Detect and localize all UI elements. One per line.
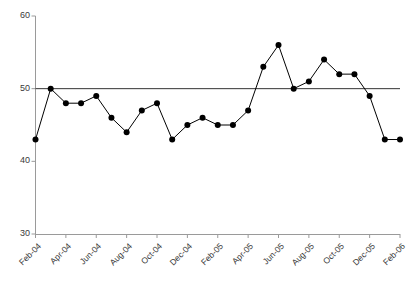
data-point bbox=[367, 93, 373, 99]
data-point bbox=[230, 122, 236, 128]
y-axis-label-30: 30 bbox=[8, 228, 30, 238]
data-point bbox=[382, 137, 388, 143]
data-point bbox=[397, 137, 403, 143]
data-point bbox=[351, 71, 357, 77]
data-point bbox=[336, 71, 342, 77]
data-point bbox=[108, 115, 114, 121]
data-point bbox=[215, 122, 221, 128]
data-point bbox=[321, 57, 327, 63]
data-point bbox=[184, 122, 190, 128]
line-chart: 30405060 Feb-04Apr-04Jun-04Aug-04Oct-04D… bbox=[0, 0, 411, 292]
data-point bbox=[124, 129, 130, 135]
data-point bbox=[139, 107, 145, 113]
data-point bbox=[63, 100, 69, 106]
data-point bbox=[48, 86, 54, 92]
data-point bbox=[245, 107, 251, 113]
data-point bbox=[276, 42, 282, 48]
data-point bbox=[260, 64, 266, 70]
data-point bbox=[169, 137, 175, 143]
data-point bbox=[154, 100, 160, 106]
data-point-markers bbox=[33, 42, 404, 142]
data-point bbox=[306, 78, 312, 84]
y-axis-label-40: 40 bbox=[8, 155, 30, 165]
y-axis-label-50: 50 bbox=[8, 83, 30, 93]
data-point bbox=[78, 100, 84, 106]
data-point bbox=[291, 86, 297, 92]
data-point bbox=[33, 137, 39, 143]
y-axis-label-60: 60 bbox=[8, 10, 30, 20]
y-axis-ticks bbox=[32, 16, 36, 234]
data-point bbox=[93, 93, 99, 99]
data-point bbox=[200, 115, 206, 121]
